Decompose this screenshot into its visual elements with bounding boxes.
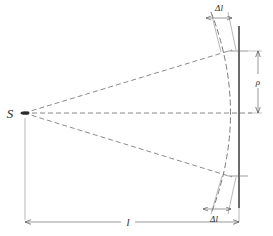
distance-l-label: l xyxy=(126,216,129,228)
delta-l-top-label: Δl xyxy=(214,3,223,13)
source-point-marker xyxy=(21,111,30,115)
dl-bottom-screen-extension xyxy=(228,177,236,214)
upper-ray-line xyxy=(24,50,232,113)
optics-geometry-figure: S l ρ Δl Δl xyxy=(0,0,273,236)
lower-ray-line xyxy=(24,113,232,177)
radius-rho-label: ρ xyxy=(255,77,261,87)
delta-l-bottom-label: Δl xyxy=(209,214,218,224)
diagram-canvas: S l ρ Δl Δl xyxy=(0,0,273,236)
source-label: S xyxy=(7,106,14,121)
dl-bottom-arc-extension xyxy=(211,176,222,214)
